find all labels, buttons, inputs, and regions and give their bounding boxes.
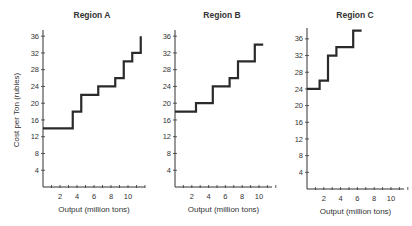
x-tick-label: 10 bbox=[255, 192, 263, 201]
y-tick-label: 4 bbox=[167, 166, 171, 175]
x-tick-label: 6 bbox=[223, 192, 227, 201]
x-tick-label: 6 bbox=[355, 194, 359, 203]
y-tick-label: 36 bbox=[163, 32, 171, 41]
region-b-axes bbox=[175, 30, 272, 187]
x-tick-label: 6 bbox=[92, 192, 96, 201]
x-tick-label: 2 bbox=[58, 192, 62, 201]
y-tick-label: 4 bbox=[299, 168, 303, 177]
region-c-x-axis-label: Output (million tons) bbox=[320, 207, 392, 216]
y-tick-label: 28 bbox=[295, 68, 303, 77]
y-tick-label: 24 bbox=[295, 85, 303, 94]
y-tick-label: 20 bbox=[31, 99, 39, 108]
y-tick-label: 8 bbox=[299, 151, 303, 160]
x-tick-label: 8 bbox=[109, 192, 113, 201]
y-tick-label: 24 bbox=[163, 82, 171, 91]
y-tick-label: 4 bbox=[35, 166, 39, 175]
x-tick-label: 4 bbox=[75, 192, 79, 201]
region-c-chart: Region C4812162024283236246810Output (mi… bbox=[295, 10, 408, 216]
y-tick-label: 16 bbox=[295, 118, 303, 127]
x-tick-label: 4 bbox=[339, 194, 343, 203]
y-tick-label: 32 bbox=[163, 49, 171, 58]
y-tick-label: 32 bbox=[295, 51, 303, 60]
y-tick-label: 28 bbox=[163, 65, 171, 74]
region-b-x-axis-label: Output (million tons) bbox=[188, 205, 260, 214]
y-tick-label: 8 bbox=[35, 149, 39, 158]
x-tick-label: 10 bbox=[124, 192, 132, 201]
cost-curves-figure: Region A4812162024283236246810Output (mi… bbox=[0, 0, 412, 226]
region-b-cost-step-line bbox=[175, 45, 263, 112]
region-a-x-axis-label: Output (million tons) bbox=[58, 205, 130, 214]
region-c-cost-step-line bbox=[307, 31, 362, 89]
y-tick-label: 20 bbox=[295, 101, 303, 110]
region-a-title: Region A bbox=[74, 10, 111, 20]
region-c-title: Region C bbox=[336, 10, 373, 20]
y-tick-label: 24 bbox=[31, 82, 39, 91]
y-tick-label: 12 bbox=[295, 135, 303, 144]
y-tick-label: 16 bbox=[163, 116, 171, 125]
x-tick-label: 2 bbox=[190, 192, 194, 201]
x-tick-label: 10 bbox=[387, 194, 395, 203]
x-tick-label: 4 bbox=[207, 192, 211, 201]
region-a-chart: Region A4812162024283236246810Output (mi… bbox=[12, 10, 145, 214]
region-b-title: Region B bbox=[203, 10, 240, 20]
region-a-axes bbox=[43, 30, 145, 187]
step-charts-svg: Region A4812162024283236246810Output (mi… bbox=[0, 0, 412, 226]
y-tick-label: 28 bbox=[31, 65, 39, 74]
x-tick-label: 8 bbox=[240, 192, 244, 201]
x-tick-label: 8 bbox=[372, 194, 376, 203]
region-a-y-axis-label: Cost per Ton (rubles) bbox=[12, 72, 21, 147]
y-tick-label: 12 bbox=[31, 132, 39, 141]
region-a-cost-step-line bbox=[43, 36, 141, 128]
y-tick-label: 20 bbox=[163, 99, 171, 108]
region-c-axes bbox=[307, 28, 404, 189]
y-tick-label: 8 bbox=[167, 149, 171, 158]
x-tick-label: 2 bbox=[322, 194, 326, 203]
y-tick-label: 36 bbox=[295, 34, 303, 43]
y-tick-label: 36 bbox=[31, 32, 39, 41]
region-b-chart: Region B4812162024283236246810Output (mi… bbox=[163, 10, 276, 214]
y-tick-label: 16 bbox=[31, 116, 39, 125]
y-tick-label: 32 bbox=[31, 49, 39, 58]
y-tick-label: 12 bbox=[163, 132, 171, 141]
